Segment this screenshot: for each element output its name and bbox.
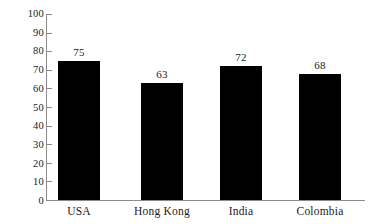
- category-label-usa: USA: [31, 205, 127, 218]
- y-axis-line: [46, 14, 47, 201]
- y-tick-mark-50: [47, 107, 52, 108]
- y-tick-label-20: 20: [4, 159, 44, 169]
- y-tick-label-80: 80: [4, 46, 44, 56]
- y-tick-mark-40: [47, 126, 52, 127]
- y-tick-label-70: 70: [4, 65, 44, 75]
- y-tick-mark-70: [47, 70, 52, 71]
- bar-chart: 100 90 80 70 60 50 40 30 20 10 0 75 63 7…: [0, 0, 380, 224]
- y-tick-label-100: 100: [4, 9, 44, 19]
- y-tick-mark-10: [47, 181, 52, 182]
- y-tick-label-40: 40: [4, 121, 44, 131]
- y-tick-label-50: 50: [4, 103, 44, 113]
- bar-colombia: [299, 74, 341, 201]
- bar-value-usa: 75: [49, 47, 109, 58]
- y-tick-mark-30: [47, 144, 52, 145]
- bar-india: [220, 66, 262, 200]
- y-tick-mark-90: [47, 33, 52, 34]
- bar-value-india: 72: [211, 52, 271, 63]
- y-tick-label-60: 60: [4, 84, 44, 94]
- y-tick-mark-20: [47, 163, 52, 164]
- category-label-colombia: Colombia: [272, 205, 368, 218]
- y-tick-label-30: 30: [4, 140, 44, 150]
- y-tick-label-10: 10: [4, 177, 44, 187]
- bar-value-colombia: 68: [290, 60, 350, 71]
- y-tick-label-90: 90: [4, 28, 44, 38]
- bar-value-hong-kong: 63: [132, 69, 192, 80]
- bar-usa: [58, 61, 100, 201]
- y-tick-mark-100: [47, 14, 52, 15]
- x-axis-line: [46, 200, 365, 201]
- bar-hong-kong: [141, 83, 183, 200]
- y-tick-mark-60: [47, 88, 52, 89]
